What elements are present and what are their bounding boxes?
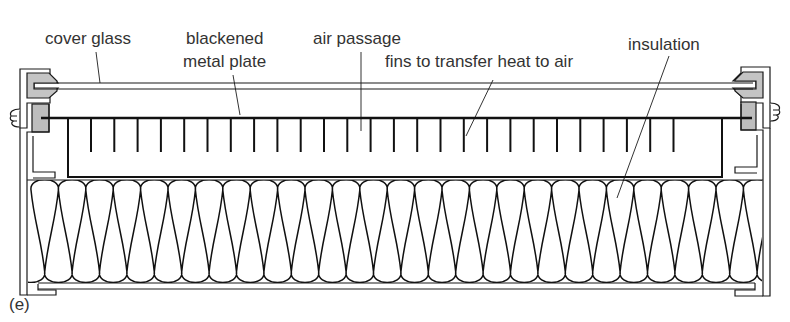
label-blackened-metal-plate-line1: blackened [186, 29, 264, 48]
leader-metal-plate [233, 75, 240, 115]
leader-fins [466, 80, 493, 136]
air-passage [68, 118, 722, 177]
leader-cover-glass [96, 52, 100, 83]
label-blackened-metal-plate-line2: metal plate [183, 52, 266, 71]
label-air-passage: air passage [313, 29, 401, 48]
label-fins: fins to transfer heat to air [385, 52, 573, 71]
left-screw-icon [10, 109, 20, 127]
heat-transfer-fins [91, 118, 674, 152]
figure-caption: (e) [9, 295, 30, 314]
insulation-batt [17, 180, 784, 283]
solar-collector-diagram: cover glass blackened metal plate air pa… [0, 0, 790, 322]
cover-glass-seal [27, 73, 57, 98]
plate-gasket-right [741, 102, 756, 130]
cover-glass [57, 83, 753, 89]
label-insulation: insulation [628, 35, 700, 54]
label-cover-glass: cover glass [45, 29, 131, 48]
cover-glass-seal-right [735, 72, 763, 98]
right-screw-icon [770, 103, 780, 121]
left-frame [20, 69, 58, 295]
insulation [17, 180, 784, 290]
